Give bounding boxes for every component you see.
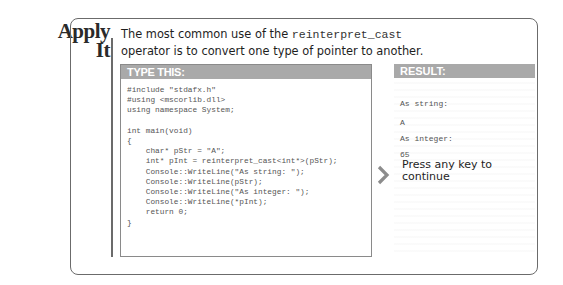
- output-line: A: [400, 118, 405, 127]
- code-line: Console::WriteLine(*pInt);: [127, 197, 371, 207]
- code-line: #using <mscorlib.dll>: [127, 95, 371, 105]
- code-line: int* pInt = reinterpret_cast<int*>(pStr)…: [127, 156, 371, 166]
- code-line: return 0;: [127, 207, 371, 217]
- intro-text-after: operator is to convert one type of point…: [121, 44, 423, 58]
- code-line: #include "stdafx.h": [127, 85, 371, 95]
- code-line: }: [127, 218, 371, 228]
- type-this-header: TYPE THIS:: [121, 65, 371, 79]
- code-line: Console::WriteLine("As string: ");: [127, 167, 371, 177]
- code-line: int main(void): [127, 126, 371, 136]
- code-line: {: [127, 136, 371, 146]
- intro-text-before: The most common use of the: [121, 27, 292, 41]
- code-block: #include "stdafx.h"#using <mscorlib.dll>…: [127, 85, 371, 228]
- output-line: As string:: [400, 99, 448, 108]
- code-line: using namespace System;: [127, 105, 371, 115]
- code-line: Console::WriteLine("As integer: ");: [127, 187, 371, 197]
- code-line: char* pStr = "A";: [127, 146, 371, 156]
- vertical-divider: [111, 38, 113, 257]
- intro-paragraph: The most common use of the reinterpret_c…: [121, 26, 521, 60]
- code-line: Console::WriteLine(pStr);: [127, 177, 371, 187]
- code-line: [127, 116, 371, 126]
- output-line: As integer:: [400, 134, 453, 143]
- chevron-right-icon: [376, 164, 390, 186]
- intro-code: reinterpret_cast: [292, 28, 402, 41]
- result-header: RESULT:: [394, 64, 535, 78]
- type-this-box: TYPE THIS: #include "stdafx.h"#using <ms…: [120, 64, 372, 257]
- press-any-key-text: Press any key to continue: [402, 159, 532, 183]
